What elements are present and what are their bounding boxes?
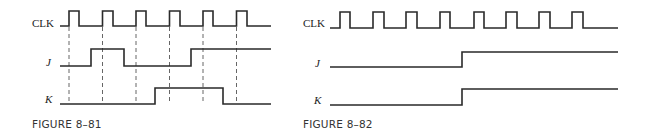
j-waveform [60, 49, 271, 66]
figure-caption: FIGURE 8–82 [303, 118, 373, 130]
timing-diagrams: CLK J K FIGURE 8–81 CLK J K [0, 0, 651, 135]
k-label: K [44, 93, 53, 105]
k-waveform [60, 88, 271, 104]
clk-label: CLK [303, 17, 325, 29]
clk-label: CLK [32, 17, 54, 29]
k-waveform [330, 89, 618, 105]
j-label: J [46, 56, 52, 68]
j-label: J [315, 57, 321, 69]
clk-waveform [60, 11, 271, 26]
j-waveform [330, 52, 618, 67]
k-label: K [313, 94, 322, 106]
figure-caption: FIGURE 8–81 [32, 118, 102, 130]
figure-8-82: CLK J K FIGURE 8–82 [303, 12, 618, 130]
clk-waveform [330, 12, 618, 28]
figure-8-81: CLK J K FIGURE 8–81 [32, 11, 271, 130]
